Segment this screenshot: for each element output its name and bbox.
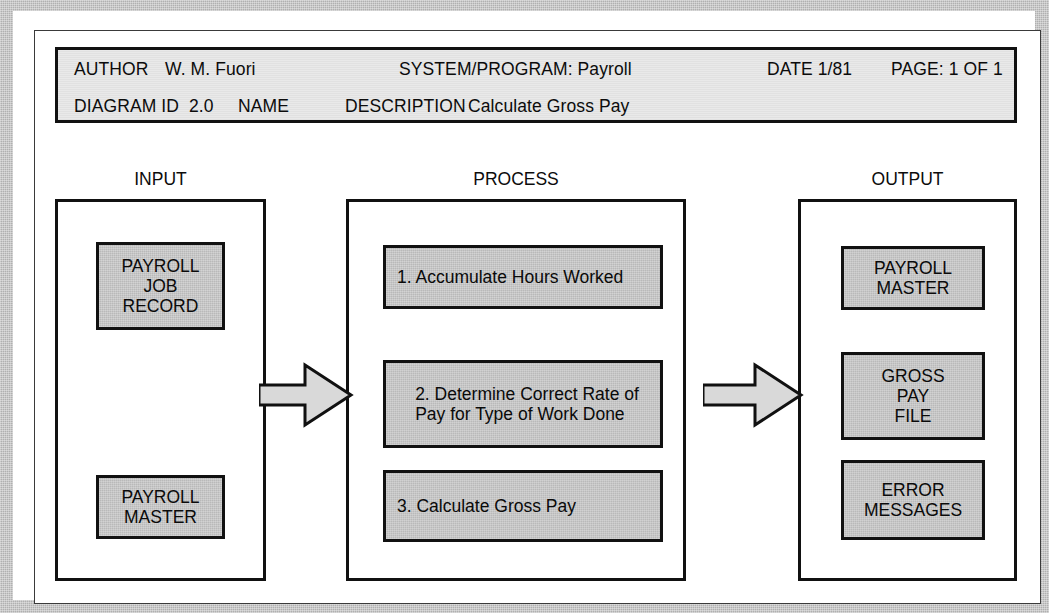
output-column-caption: OUTPUT [798,169,1017,190]
page-sheet: AUTHOR W. M. Fuori SYSTEM/PROGRAM: Payro… [13,11,1035,600]
scanned-page-border: AUTHOR W. M. Fuori SYSTEM/PROGRAM: Payro… [0,0,1049,613]
input-data-box: PAYROLL MASTER [96,475,225,539]
output-data-box: GROSS PAY FILE [841,352,985,440]
diagram-header-band: AUTHOR W. M. Fuori SYSTEM/PROGRAM: Payro… [55,47,1017,123]
input-data-box: PAYROLL JOB RECORD [96,242,225,330]
input-to-process-arrow [259,359,355,431]
system-program-field: SYSTEM/PROGRAM: Payroll [399,59,632,80]
name-label: NAME [238,96,289,117]
header-row-bottom: DIAGRAM ID 2.0 NAME DESCRIPTION Calculat… [58,87,1014,125]
input-column-caption: INPUT [55,169,266,190]
process-column-caption: PROCESS [346,169,686,190]
author-value: W. M. Fuori [165,59,256,80]
diagram-id-label: DIAGRAM ID [74,96,179,117]
process-step-box: 2. Determine Correct Rate of Pay for Typ… [383,360,663,448]
process-step-box: 1. Accumulate Hours Worked [383,245,663,309]
page-field: PAGE: 1 OF 1 [891,59,1003,80]
diagram-id-value: 2.0 [189,96,214,117]
process-to-output-arrow [703,359,805,431]
header-row-top: AUTHOR W. M. Fuori SYSTEM/PROGRAM: Payro… [58,50,1014,88]
output-data-box: ERROR MESSAGES [841,460,985,540]
output-data-box: PAYROLL MASTER [841,246,985,310]
process-step-box: 3. Calculate Gross Pay [383,470,663,542]
date-field: DATE 1/81 [767,59,852,80]
description-label: DESCRIPTION [345,96,466,117]
description-value: Calculate Gross Pay [468,96,629,117]
author-label: AUTHOR [74,59,149,80]
